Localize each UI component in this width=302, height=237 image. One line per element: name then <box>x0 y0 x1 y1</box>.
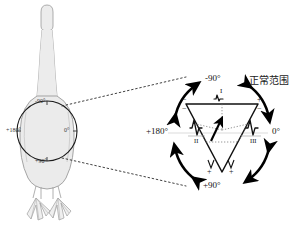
guide-line-top <box>62 77 186 106</box>
duck-body <box>20 96 74 189</box>
polarity-right-inner: − <box>257 105 262 113</box>
duck-dorsal-view <box>17 5 77 220</box>
duck-foot-right <box>49 198 71 220</box>
wheel-angle-label-left: +180° <box>146 127 168 136</box>
body-axis-label-top: -90° <box>35 98 45 104</box>
duck-foot-left <box>27 198 50 220</box>
polarity-bottom-right: + <box>229 168 234 176</box>
polarity-bottom-left: + <box>207 168 212 176</box>
duck-neck-fill <box>37 30 57 96</box>
lead-1-label: I <box>220 88 222 95</box>
body-axis-label-bottom: +90° <box>35 158 47 164</box>
lead-3-label: III <box>250 138 257 145</box>
wheel-angle-label-bottom: +90° <box>203 181 221 190</box>
polarity-top-left: − <box>182 96 187 104</box>
lead-2-label: II <box>194 138 198 145</box>
polarity-left-inner: − <box>182 105 187 113</box>
wheel-angle-label-right: 0° <box>272 127 280 136</box>
arc-lower-left <box>175 148 196 180</box>
wheel-angle-label-top: -90° <box>205 74 221 83</box>
body-axis-label-right: 0° <box>64 127 69 133</box>
arc-lower-right <box>248 148 269 180</box>
mean-axis-vector <box>211 120 221 141</box>
polarity-top-right: + <box>257 96 262 104</box>
figure-canvas <box>0 0 302 237</box>
body-axis-label-left: +180° <box>6 127 21 133</box>
ecg-axis-figure: -90° 0° +90° +180° -90° 0° +90° +180° 正常… <box>0 0 302 237</box>
normal-range-label: 正常范围 <box>249 76 289 86</box>
duck-head <box>41 5 53 31</box>
lead-1-qrs-waveform <box>214 95 223 101</box>
guide-line-bottom <box>62 158 186 186</box>
